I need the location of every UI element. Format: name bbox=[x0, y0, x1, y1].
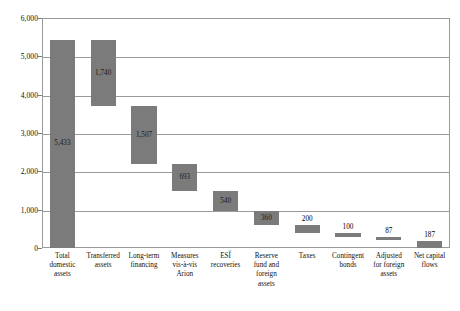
y-axis-tick-label: 0 bbox=[0, 244, 38, 253]
x-axis-category-line: foreign bbox=[243, 270, 290, 279]
x-axis-category-line: Long-term bbox=[121, 252, 168, 261]
x-axis-category-label: Measuresvis-à-visArion bbox=[161, 252, 208, 280]
x-axis-category-line: Reserve bbox=[243, 252, 290, 261]
bar[interactable] bbox=[417, 241, 442, 248]
x-axis-category-line: recoveries bbox=[202, 261, 249, 270]
y-axis-tick-label: 3,000 bbox=[0, 129, 38, 138]
x-axis-category-line: flows bbox=[406, 261, 453, 270]
bar-value-label: 360 bbox=[261, 214, 272, 222]
y-axis-tick-mark bbox=[37, 56, 42, 57]
y-axis-tick-mark bbox=[37, 248, 42, 249]
x-axis-category-line: bonds bbox=[325, 261, 372, 270]
bar[interactable] bbox=[335, 233, 360, 237]
x-axis-category-line: Arion bbox=[161, 270, 208, 279]
y-axis-tick-mark bbox=[37, 171, 42, 172]
bar-value-label: 100 bbox=[343, 223, 354, 231]
x-axis-category-label: Net capitalflows bbox=[406, 252, 453, 270]
x-axis-category-label: Reservefund andforeignassets bbox=[243, 252, 290, 289]
x-axis-category-line: vis-à-vis bbox=[161, 261, 208, 270]
x-axis-category-line: Total bbox=[39, 252, 86, 261]
y-axis-tick-mark bbox=[37, 95, 42, 96]
y-axis-tick-mark bbox=[37, 18, 42, 19]
gridline bbox=[43, 134, 449, 135]
x-axis-category-line: Adjusted bbox=[365, 252, 412, 261]
x-axis-category-label: Taxes bbox=[284, 252, 331, 261]
x-axis-category-label: Transferredassets bbox=[80, 252, 127, 270]
bar-value-label: 87 bbox=[385, 227, 392, 235]
waterfall-chart: 01,0002,0003,0004,0005,0006,000 5,4331,7… bbox=[0, 0, 460, 311]
x-axis-category-label: Totaldomesticassets bbox=[39, 252, 86, 280]
bar-value-label: 187 bbox=[424, 231, 435, 239]
x-axis-category-line: Contingent bbox=[325, 252, 372, 261]
x-axis-category-label: Contingentbonds bbox=[325, 252, 372, 270]
x-axis-category-line: assets bbox=[39, 270, 86, 279]
gridline bbox=[43, 172, 449, 173]
x-axis-category-line: Transferred bbox=[80, 252, 127, 261]
x-axis-category-line: domestic bbox=[39, 261, 86, 270]
x-axis-category-line: fund and bbox=[243, 261, 290, 270]
x-axis-category-line: assets bbox=[80, 261, 127, 270]
y-axis-tick-label: 6,000 bbox=[0, 14, 38, 23]
x-axis-category-line: ESÍ bbox=[202, 252, 249, 261]
y-axis-tick-mark bbox=[37, 210, 42, 211]
y-axis-tick-mark bbox=[37, 133, 42, 134]
x-axis-category-line: for foreign bbox=[365, 261, 412, 270]
x-axis-category-line: Net capital bbox=[406, 252, 453, 261]
bar-value-label: 200 bbox=[302, 215, 313, 223]
y-axis-tick-label: 4,000 bbox=[0, 90, 38, 99]
bar-value-label: 1,507 bbox=[136, 131, 152, 139]
bar-value-label: 1,740 bbox=[95, 69, 111, 77]
bar-value-label: 5,433 bbox=[54, 139, 70, 147]
x-axis-category-label: Adjustedfor foreignassets bbox=[365, 252, 412, 280]
x-axis-category-label: Long-termfinancing bbox=[121, 252, 168, 270]
y-axis-tick-label: 1,000 bbox=[0, 205, 38, 214]
bar-value-label: 693 bbox=[179, 173, 190, 181]
bar[interactable] bbox=[376, 237, 401, 240]
x-axis-category-line: Measures bbox=[161, 252, 208, 261]
x-axis-category-line: assets bbox=[243, 280, 290, 289]
y-axis-tick-label: 5,000 bbox=[0, 52, 38, 61]
bar-value-label: 540 bbox=[220, 197, 231, 205]
gridline bbox=[43, 211, 449, 212]
x-axis-category-line: assets bbox=[365, 270, 412, 279]
bar[interactable] bbox=[295, 225, 320, 233]
x-axis-category-label: ESÍrecoveries bbox=[202, 252, 249, 270]
x-axis-category-line: Taxes bbox=[284, 252, 331, 261]
x-axis-category-line: financing bbox=[121, 261, 168, 270]
y-axis-tick-label: 2,000 bbox=[0, 167, 38, 176]
